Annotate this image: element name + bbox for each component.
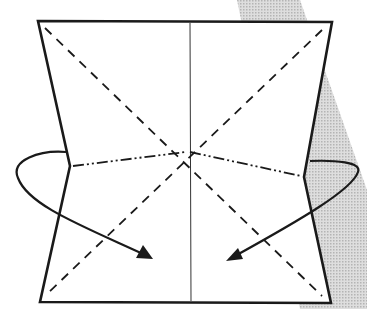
origami-diagram (0, 0, 367, 309)
diagram-canvas (0, 0, 367, 309)
